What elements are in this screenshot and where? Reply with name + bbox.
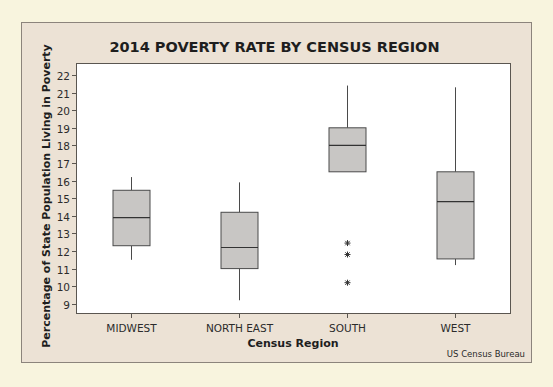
y-tick-label: 15 bbox=[57, 193, 70, 205]
y-tick-label: 11 bbox=[57, 264, 70, 276]
y-tick-label: 12 bbox=[57, 246, 70, 258]
y-tick-label: 14 bbox=[57, 211, 71, 223]
iqr-box bbox=[437, 172, 474, 259]
y-tick-label: 20 bbox=[57, 105, 70, 117]
outlier-asterisk-icon bbox=[345, 240, 351, 246]
y-tick-label: 9 bbox=[63, 299, 70, 311]
y-tick-label: 10 bbox=[57, 281, 70, 293]
y-tick-label: 18 bbox=[57, 140, 70, 152]
y-tick-label: 21 bbox=[57, 88, 70, 100]
y-tick-label: 16 bbox=[57, 176, 71, 188]
iqr-box bbox=[221, 212, 258, 268]
outlier-asterisk-icon bbox=[345, 252, 351, 258]
x-category-label: SOUTH bbox=[329, 322, 366, 334]
x-category-label: MIDWEST bbox=[106, 322, 157, 334]
y-tick-label: 17 bbox=[57, 158, 70, 170]
outlier-asterisk-icon bbox=[345, 280, 351, 286]
iqr-box bbox=[329, 128, 366, 172]
x-axis: MIDWESTNORTH EASTSOUTHWEST bbox=[106, 314, 471, 335]
x-category-label: WEST bbox=[440, 322, 471, 334]
y-axis: 910111213141516171819202122 bbox=[57, 70, 77, 311]
box-plot: 910111213141516171819202122 MIDWESTNORTH… bbox=[0, 0, 553, 387]
y-tick-label: 22 bbox=[57, 70, 70, 82]
y-tick-label: 19 bbox=[57, 123, 70, 135]
y-tick-label: 13 bbox=[57, 228, 70, 240]
x-category-label: NORTH EAST bbox=[206, 322, 274, 334]
